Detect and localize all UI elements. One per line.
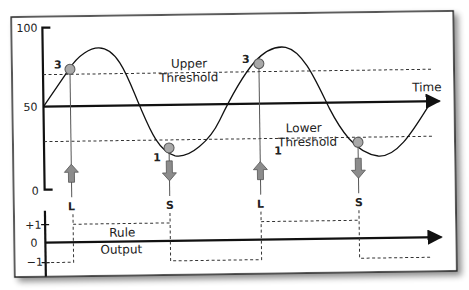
signal-label: S (355, 196, 363, 209)
lower-threshold-label-2: Threshold (277, 135, 337, 150)
svg-text:1: 1 (274, 144, 282, 157)
y-tick-zero: 0 (30, 237, 37, 250)
upper-threshold-label-1: Upper (171, 56, 208, 71)
upper-threshold-label-2: Threshold (158, 70, 218, 85)
lower-threshold-label-1: Lower (286, 121, 322, 136)
svg-text:1: 1 (153, 151, 161, 164)
signal-label: L (68, 200, 75, 213)
rule-diagram: 100 50 0 Time Upper Threshold Lower Thre… (0, 0, 469, 290)
y-tick-100: 100 (16, 22, 37, 35)
signal-label: S (166, 199, 174, 212)
y-tick-plus-1: +1 (25, 219, 41, 232)
y-tick-0: 0 (32, 185, 39, 198)
rule-output-title-1: Rule (109, 225, 135, 239)
svg-text:3: 3 (242, 53, 250, 66)
signal-label: L (257, 198, 264, 211)
rule-output-title-2: Output (100, 242, 142, 257)
y-tick-minus-1: −1 (27, 256, 43, 269)
time-axis-label: Time (411, 80, 442, 94)
y-tick-50: 50 (23, 101, 37, 114)
svg-text:3: 3 (54, 58, 62, 71)
